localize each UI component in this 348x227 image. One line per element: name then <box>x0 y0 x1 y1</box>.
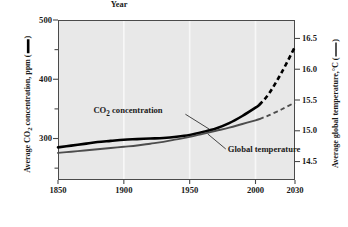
annotation-leader-line <box>208 134 226 149</box>
x-tick-label: 2030 <box>277 185 313 195</box>
y-tick-label-left: 500 <box>22 15 52 25</box>
series-line-dashed <box>259 102 295 119</box>
y-tick-label-right: 15.0 <box>302 125 317 135</box>
x-tick-label: 1850 <box>40 185 76 195</box>
co2-curve-label: CO2 concentration <box>93 105 162 118</box>
x-tick-label: 2000 <box>238 185 274 195</box>
co2-curve-label-post: concentration <box>110 105 163 115</box>
temperature-curve-label: Global temperature <box>228 144 301 154</box>
y-tick-label-left: 300 <box>22 133 52 143</box>
x-tick-label: 1900 <box>106 185 142 195</box>
y-tick-label-right: 16.0 <box>302 64 317 74</box>
y-tick-label-right: 14.5 <box>302 156 317 166</box>
series-line-dashed <box>259 47 295 105</box>
y-tick-label-right: 15.5 <box>302 95 317 105</box>
co2-curve-label-pre: CO <box>93 105 106 115</box>
y-tick-label-right: 16.5 <box>302 33 317 43</box>
x-tick-label: 1950 <box>172 185 208 195</box>
figure: Average CO2 concentration, ppm () Averag… <box>0 0 348 227</box>
y-tick-label-left: 400 <box>22 74 52 84</box>
